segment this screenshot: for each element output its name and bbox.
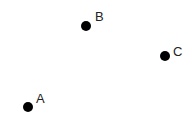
point-a-label: A [36, 92, 45, 105]
point-c-label: C [173, 45, 182, 58]
point-a-dot [23, 102, 33, 112]
point-b-label: B [95, 10, 104, 23]
point-b-dot [81, 21, 91, 31]
point-c-dot [160, 51, 170, 61]
